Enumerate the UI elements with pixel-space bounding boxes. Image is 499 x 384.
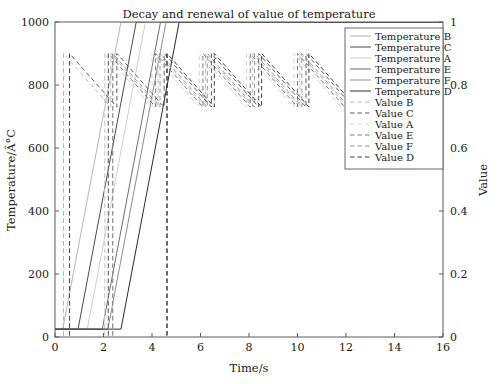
x-tick-label: 16 [436,341,450,354]
y-tick-label: 0 [42,331,49,344]
y-tick-label: 1000 [21,16,49,29]
y-axis-right-title: Value [476,164,490,197]
legend-label-temperature-f: Temperature F [375,75,451,86]
legend-label-temperature-e: Temperature E [375,64,451,75]
y-tick-label: 600 [28,142,49,155]
x-tick-label: 12 [339,341,353,354]
chart-title: Decay and renewal of value of temperatur… [122,7,375,21]
y-axis-left-title: Temperature/Â°C [4,129,18,231]
y2-tick-label: 0.4 [450,205,468,218]
y2-tick-label: 0.6 [450,142,468,155]
legend-label-temperature-a: Temperature A [375,53,452,64]
temperature-value-chart: Decay and renewal of value of temperatur… [0,0,499,384]
legend-label-value-f: Value F [374,141,413,152]
legend-label-temperature-c: Temperature C [375,42,452,53]
legend-label-temperature-b: Temperature B [375,31,451,42]
x-tick-label: 2 [100,341,107,354]
y-tick-label: 400 [28,205,49,218]
y-tick-label: 800 [28,79,49,92]
y2-tick-label: 0.2 [450,268,468,281]
x-axis-title: Time/s [230,361,269,375]
chart-figure: Decay and renewal of value of temperatur… [0,0,499,384]
x-tick-label: 8 [246,341,253,354]
legend-label-value-e: Value E [374,130,413,141]
legend-label-value-c: Value C [374,108,414,119]
y2-tick-label: 1 [450,16,457,29]
x-tick-label: 14 [388,341,402,354]
x-tick-label: 4 [149,341,156,354]
x-tick-label: 0 [52,341,59,354]
legend-label-value-d: Value D [374,152,414,163]
chart-legend: Temperature BTemperature CTemperature AT… [345,28,452,169]
y2-tick-label: 0.8 [450,79,468,92]
x-tick-label: 6 [197,341,204,354]
x-tick-label: 10 [291,341,305,354]
y2-tick-label: 0 [450,331,457,344]
y-tick-label: 200 [28,268,49,281]
legend-label-value-b: Value B [374,97,413,108]
legend-label-temperature-d: Temperature D [375,86,452,97]
legend-label-value-a: Value A [374,119,414,130]
